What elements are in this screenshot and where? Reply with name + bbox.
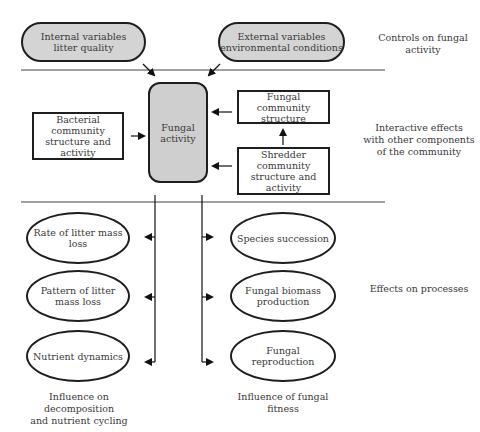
process-right-3-line1: Fungal	[252, 345, 315, 356]
process-left-2-line1: Pattern of litter	[41, 285, 116, 296]
processes-label: Effects on processes	[360, 283, 478, 295]
bacterial-line1: Bacterial community	[34, 114, 122, 136]
process-left-3: Nutrient dynamics	[26, 330, 130, 382]
external-variables-line2: environmental conditions	[220, 42, 343, 53]
process-left-3-line1: Nutrient dynamics	[33, 351, 123, 362]
footer-right: Influence of fungal fitness	[225, 391, 341, 415]
interactions-label-line2: with other components	[360, 134, 478, 146]
interactions-label-line1: Interactive effects	[360, 122, 478, 134]
process-left-2-line2: mass loss	[41, 296, 116, 307]
controls-label-line2: activity	[368, 44, 478, 56]
bacterial-community-node: Bacterial community structure and activi…	[32, 112, 124, 160]
process-left-1-line1: Rate of litter mass	[33, 227, 122, 238]
controls-label-line1: Controls on fungal	[368, 32, 478, 44]
interactions-label: Interactive effects with other component…	[360, 122, 478, 158]
footer-left: Influence on decomposition and nutrient …	[14, 391, 144, 427]
fungal-community-line1: Fungal community	[239, 91, 328, 113]
bacterial-line2: structure and activity	[34, 136, 122, 158]
fungal-activity-node: Fungal activity	[148, 82, 208, 183]
fungal-community-line2: structure	[239, 113, 328, 124]
external-variables-line1: External variables	[220, 31, 343, 42]
shredder-community-node: Shredder community structure and activit…	[237, 147, 330, 195]
fungal-community-node: Fungal community structure	[237, 90, 330, 124]
internal-variables-line1: Internal variables	[41, 31, 127, 42]
process-right-2-line2: production	[245, 296, 321, 307]
internal-variables-line2: litter quality	[41, 42, 127, 53]
process-left-1: Rate of litter mass loss	[26, 212, 130, 264]
fungal-activity-line2: activity	[160, 133, 195, 144]
internal-variables-node: Internal variables litter quality	[21, 22, 146, 62]
process-left-1-line2: loss	[33, 238, 122, 249]
external-variables-node: External variables environmental conditi…	[218, 22, 345, 62]
shredder-line2: structure and activity	[239, 171, 328, 193]
process-right-3-line2: reproduction	[252, 356, 315, 367]
process-right-3: Fungal reproduction	[230, 330, 336, 382]
process-right-2: Fungal biomass production	[230, 270, 336, 322]
footer-left-line2: and nutrient cycling	[14, 415, 144, 427]
interactions-label-line3: of the community	[360, 146, 478, 158]
process-right-2-line1: Fungal biomass	[245, 285, 321, 296]
footer-right-line1: Influence of fungal	[225, 391, 341, 403]
footer-right-line2: fitness	[225, 403, 341, 415]
process-right-1-line1: Species succession	[237, 233, 329, 244]
process-left-2: Pattern of litter mass loss	[26, 270, 130, 322]
fungal-activity-line1: Fungal	[160, 122, 195, 133]
footer-left-line1: Influence on decomposition	[14, 391, 144, 415]
controls-label: Controls on fungal activity	[368, 32, 478, 56]
process-right-1: Species succession	[230, 212, 336, 264]
shredder-line1: Shredder community	[239, 149, 328, 171]
